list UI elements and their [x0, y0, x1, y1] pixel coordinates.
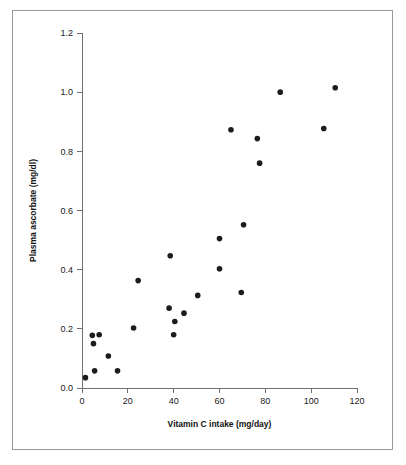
x-tick-label: 20 — [123, 396, 133, 406]
y-tick-label: 0.0 — [60, 383, 73, 393]
data-point[interactable] — [167, 253, 173, 259]
x-tick-label: 40 — [169, 396, 179, 406]
scatter-chart[interactable]: 0.00.20.40.60.81.01.2 020406080100120 Vi… — [0, 0, 406, 465]
data-point[interactable] — [181, 310, 187, 316]
data-point[interactable] — [217, 236, 223, 242]
x-axis-title: Vitamin C intake (mg/day) — [168, 419, 272, 429]
data-point[interactable] — [83, 375, 89, 381]
y-tick-label: 0.8 — [60, 147, 73, 157]
data-point[interactable] — [166, 305, 172, 311]
data-point[interactable] — [255, 136, 261, 142]
data-point[interactable] — [241, 222, 247, 228]
data-point[interactable] — [238, 290, 244, 296]
y-tick-label: 0.6 — [60, 206, 73, 216]
data-point[interactable] — [172, 319, 178, 325]
x-tick-label: 60 — [214, 396, 224, 406]
data-point[interactable] — [195, 293, 201, 299]
data-point[interactable] — [131, 325, 137, 331]
data-point[interactable] — [277, 89, 283, 95]
x-tick-label: 120 — [349, 396, 364, 406]
y-tick-label: 0.2 — [60, 324, 73, 334]
data-point[interactable] — [257, 160, 263, 166]
x-tick-label: 80 — [260, 396, 270, 406]
x-axis-ticks: 020406080100120 — [79, 388, 364, 406]
data-point[interactable] — [115, 368, 121, 374]
x-tick-label: 0 — [79, 396, 84, 406]
y-axis-title: Plasma ascorbate (mg/dl) — [28, 159, 38, 262]
y-tick-label: 0.4 — [60, 265, 73, 275]
y-axis-ticks: 0.00.20.40.60.81.01.2 — [60, 28, 82, 393]
data-point[interactable] — [96, 332, 102, 338]
y-tick-label: 1.0 — [60, 87, 73, 97]
data-point[interactable] — [228, 127, 234, 133]
data-point[interactable] — [90, 333, 96, 339]
y-tick-label: 1.2 — [60, 28, 73, 38]
data-point[interactable] — [321, 126, 327, 132]
data-point[interactable] — [217, 266, 223, 272]
x-tick-label: 100 — [304, 396, 319, 406]
axes — [82, 33, 357, 388]
data-point[interactable] — [91, 341, 97, 347]
figure-container: 0.00.20.40.60.81.01.2 020406080100120 Vi… — [0, 0, 406, 465]
data-point[interactable] — [92, 368, 98, 374]
data-point[interactable] — [171, 332, 177, 338]
data-point[interactable] — [106, 353, 112, 359]
data-point[interactable] — [135, 278, 141, 284]
data-point[interactable] — [332, 85, 338, 91]
data-points-group[interactable] — [83, 85, 338, 381]
